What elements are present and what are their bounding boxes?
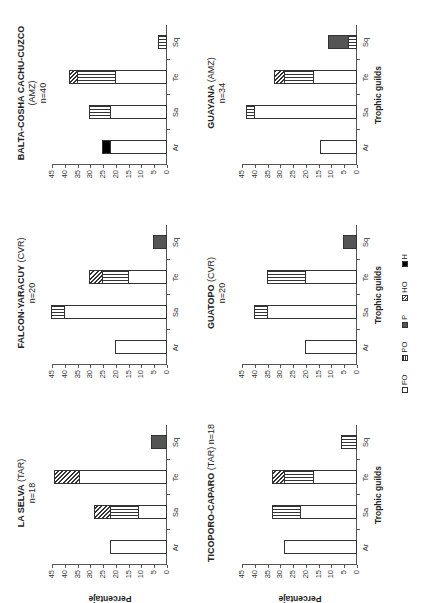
y-axis: [52, 564, 167, 565]
bar-te: [55, 471, 167, 485]
bar-ar: [111, 541, 167, 555]
panel-title: LA SELVA (TAR)n=18: [16, 413, 38, 573]
y-tick-label: 5: [340, 170, 348, 185]
x-category-label: Sa: [361, 98, 370, 128]
y-tick: [116, 365, 117, 368]
x-tick: [357, 129, 360, 130]
y-tick: [141, 565, 142, 568]
y-tick: [280, 165, 281, 168]
y-tick: [319, 365, 320, 368]
y-tick-label: 10: [137, 170, 145, 185]
y-tick: [116, 565, 117, 568]
bar-segment-fo: [267, 306, 357, 320]
y-tick-label: 0: [163, 170, 171, 185]
y-axis-label: Percentaje: [88, 594, 131, 603]
panel-title-region: (CVR): [16, 237, 26, 265]
x-tick: [357, 529, 360, 530]
bar-ar: [103, 141, 167, 155]
y-tick: [306, 565, 307, 568]
y-tick-label: 40: [61, 570, 69, 585]
x-category-label: Te: [361, 263, 370, 293]
y-tick-label: 40: [61, 170, 69, 185]
x-category-label: Sq: [361, 228, 370, 258]
legend-swatch: [402, 387, 408, 393]
bar-ar: [306, 341, 357, 355]
figure: LA SELVA (TAR)n=18051015202530354045ArSa…: [0, 0, 429, 603]
x-category-label: Ar: [171, 333, 180, 363]
panel-balta-cosha: BALTA-COSHA CACHU-CUZCO (AMZ)n=400510152…: [10, 13, 200, 203]
legend-swatch: [402, 261, 408, 267]
y-tick-label: 10: [327, 570, 335, 585]
bar-te: [90, 271, 167, 285]
panel-title-bold: FALCON-YARACUY: [16, 265, 26, 349]
bar-segment-fo: [64, 306, 167, 320]
plot-area: 051015202530354045ArSaTeSq: [52, 25, 167, 165]
y-tick-label: 45: [238, 370, 246, 385]
x-category-label: Sq: [171, 428, 180, 458]
x-tick: [357, 59, 360, 60]
plot-area: 051015202530354045ArSaTeSqTrophic guilds: [242, 25, 357, 165]
y-tick-label: 30: [276, 370, 284, 385]
y-tick-label: 20: [112, 370, 120, 385]
y-tick-label: 10: [327, 370, 335, 385]
x-tick: [167, 294, 170, 295]
y-tick: [319, 565, 320, 568]
bar-te: [275, 71, 357, 85]
y-tick-label: 30: [276, 570, 284, 585]
panel-falcon-yaracuy: FALCON-YARACUY (CVR)n=200510152025303540…: [10, 213, 200, 403]
bar-segment-fo: [110, 141, 167, 155]
panel-title-bold: GUAYANA: [206, 85, 216, 129]
y-tick: [103, 565, 104, 568]
legend-label: FO: [400, 375, 409, 385]
bar-segment-fo: [313, 71, 357, 85]
y-tick-label: 45: [238, 170, 246, 185]
y-tick: [129, 165, 130, 168]
x-axis-label: Trophic guilds: [373, 25, 383, 165]
bar-segment-fo: [313, 471, 357, 485]
y-axis: [242, 364, 357, 365]
bar-segment-fo: [300, 506, 357, 520]
y-tick: [357, 365, 358, 368]
y-tick: [90, 165, 91, 168]
y-tick: [78, 365, 79, 368]
y-tick: [154, 565, 155, 568]
y-tick-label: 20: [302, 170, 310, 185]
y-tick-label: 25: [99, 170, 107, 185]
bar-segment-fo: [128, 271, 167, 285]
bar-sa: [95, 506, 167, 520]
panel-title: GUAYANA (AMZ)n=34: [206, 13, 228, 173]
y-tick: [65, 565, 66, 568]
y-tick-label: 35: [264, 370, 272, 385]
bar-segment-fo: [115, 71, 167, 85]
y-tick-label: 20: [112, 570, 120, 585]
legend-swatch: [402, 295, 408, 301]
bar-sq: [329, 36, 357, 50]
y-tick: [90, 365, 91, 368]
x-tick: [167, 329, 170, 330]
y-tick-label: 5: [150, 370, 158, 385]
y-tick: [129, 365, 130, 368]
y-tick-label: 35: [74, 170, 82, 185]
y-tick-label: 15: [315, 370, 323, 385]
bar-sa: [90, 106, 167, 120]
panel-title-bold: LA SELVA: [16, 485, 26, 528]
legend-item-h: H: [400, 254, 409, 267]
bar-segment-fo: [79, 471, 167, 485]
x-tick: [357, 459, 360, 460]
bar-sq: [344, 236, 357, 250]
x-axis-label: Trophic guilds: [373, 225, 383, 365]
y-tick-label: 45: [48, 570, 56, 585]
bar-sq: [154, 236, 167, 250]
y-tick-label: 15: [125, 170, 133, 185]
y-tick: [255, 565, 256, 568]
y-tick: [357, 565, 358, 568]
bar-segment-fo: [138, 506, 167, 520]
legend-swatch: [402, 355, 408, 361]
x-category-label: Sq: [361, 428, 370, 458]
bar-segment-fo: [254, 106, 357, 120]
y-tick: [65, 365, 66, 368]
y-tick-label: 10: [137, 570, 145, 585]
y-tick-label: 10: [137, 370, 145, 385]
bar-segment-ho: [54, 471, 81, 485]
bar-segment-fo: [305, 341, 357, 355]
